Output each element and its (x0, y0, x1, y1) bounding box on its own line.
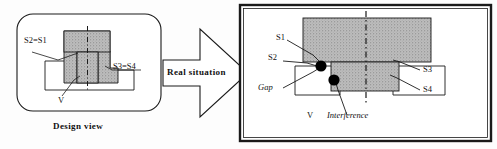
label-v-right: V (307, 111, 313, 120)
label-s3-s4: S3=S4 (113, 62, 136, 71)
right-t-stem (331, 62, 399, 91)
label-s4: S4 (423, 85, 432, 94)
design-view-caption: Design view (53, 122, 103, 131)
gap-marker-dot (315, 60, 326, 71)
interference-marker-dot (328, 74, 339, 85)
label-s1: S1 (276, 33, 285, 42)
real-situation-panel: S1 S2 Gap S3 S4 V Interference (235, 0, 497, 149)
label-s2-s1: S2=S1 (24, 36, 47, 45)
right-t-head (303, 18, 431, 62)
label-gap: Gap (258, 83, 273, 92)
label-interference: Interference (327, 111, 368, 120)
label-v-left: V (58, 96, 64, 105)
real-situation-drawing (235, 0, 497, 149)
arrow-caption: Real situation (167, 68, 226, 77)
figure-root: S2=S1 S3=S4 V Design view Real situation (0, 0, 497, 149)
design-view-panel: S2=S1 S3=S4 V Design view (0, 0, 180, 149)
label-s3: S3 (423, 65, 432, 74)
right-lower-right-body (393, 66, 445, 95)
label-s2: S2 (268, 53, 277, 62)
